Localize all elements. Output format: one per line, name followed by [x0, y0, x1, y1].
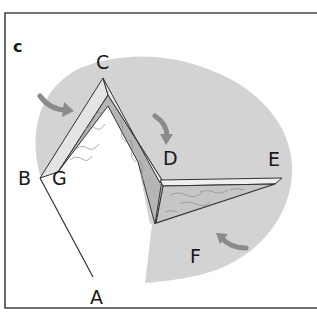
flap-diagram: c C B G D E F A: [0, 0, 317, 319]
label-c: C: [96, 51, 109, 73]
label-f: F: [190, 245, 201, 267]
panel-label: c: [13, 37, 22, 56]
label-e: E: [268, 148, 280, 170]
label-g: G: [52, 167, 67, 189]
label-a: A: [90, 286, 103, 308]
label-d: D: [163, 147, 178, 169]
label-b: B: [18, 167, 31, 189]
